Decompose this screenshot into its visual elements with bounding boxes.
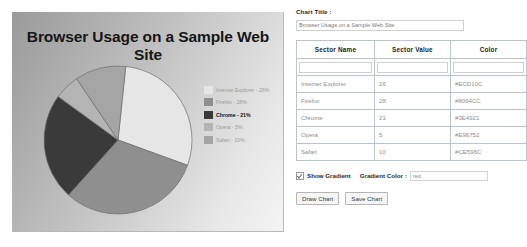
column-header-sector-name: Sector Name <box>297 40 375 58</box>
new-entry-name-cell <box>297 58 375 75</box>
show-gradient-label: Show Gradient <box>307 172 351 179</box>
sector-value-cell: 28 <box>375 92 451 109</box>
save-chart-button[interactable]: Save Chart <box>345 192 388 205</box>
sector-name-text: Safari <box>297 145 374 159</box>
legend-item-label: Safari - 10% <box>216 136 245 144</box>
sector-color-cell: #8064CC <box>451 92 527 109</box>
legend-swatch-icon <box>204 86 213 94</box>
sector-value-cell: 10 <box>375 143 451 160</box>
legend-swatch-icon <box>204 136 213 144</box>
gradient-options-row: Show Gradient Gradient Color : <box>296 171 472 181</box>
column-header-sector-value: Sector Value <box>375 40 451 58</box>
sector-color-text: #CE596C <box>451 145 526 159</box>
sector-value-text: 21 <box>375 111 450 125</box>
sector-name-cell: Firefox <box>297 92 375 109</box>
action-button-row: Draw Chart Save Chart <box>296 192 472 205</box>
legend-item: Opera - 5% <box>204 122 280 133</box>
show-gradient-checkbox[interactable] <box>296 172 304 180</box>
pie-chart-svg <box>42 64 194 216</box>
sector-name-text: Firefox <box>297 94 374 108</box>
sector-color-cell: #E96752 <box>451 126 527 143</box>
legend-item: Safari - 10% <box>204 134 280 145</box>
legend-item-label: Internet Explorer - 26% <box>216 86 269 94</box>
legend-item: Firefox - 28% <box>204 97 280 108</box>
sector-name-text: Chrome <box>297 111 374 125</box>
chart-editor-form: Chart Title : Sector Name Sector Value C… <box>296 8 472 205</box>
sector-value-text: 28 <box>375 94 450 108</box>
sector-color-text: #ECD10C <box>451 77 526 91</box>
new-sector-name-input[interactable] <box>299 62 372 73</box>
new-sector-color-input[interactable] <box>453 62 524 73</box>
chart-title-text: Browser Usage on a Sample Web Site <box>12 28 284 64</box>
chart-title-label: Chart Title : <box>296 8 472 15</box>
sector-value-cell: 26 <box>375 75 451 92</box>
chart-preview-panel: Browser Usage on a Sample Web Site Inter… <box>12 12 284 232</box>
sector-value-text: 26 <box>375 77 450 91</box>
legend-item: Chrome - 21% <box>204 109 280 120</box>
table-row[interactable]: Internet Explorer26#ECD10C <box>297 75 527 92</box>
sector-name-cell: Opera <box>297 126 375 143</box>
new-sector-value-input[interactable] <box>377 62 448 73</box>
column-header-color: Color <box>451 40 527 58</box>
table-row[interactable]: Safari10#CE596C <box>297 143 527 160</box>
sector-name-cell: Chrome <box>297 109 375 126</box>
gradient-color-input[interactable] <box>410 171 488 181</box>
chart-title-input[interactable] <box>296 20 464 31</box>
sector-color-text: #3E4921 <box>451 111 526 125</box>
new-entry-color-cell <box>451 58 527 75</box>
legend-item-label: Firefox - 28% <box>216 98 247 106</box>
sector-value-cell: 21 <box>375 109 451 126</box>
table-row[interactable]: Opera5#E96752 <box>297 126 527 143</box>
sector-color-cell: #3E4921 <box>451 109 527 126</box>
draw-chart-button[interactable]: Draw Chart <box>296 192 339 205</box>
sector-color-cell: #CE596C <box>451 143 527 160</box>
table-new-entry-row <box>297 58 527 75</box>
legend-item: Internet Explorer - 26% <box>204 84 280 95</box>
sector-value-cell: 5 <box>375 126 451 143</box>
legend-swatch-icon <box>204 98 213 106</box>
sector-color-cell: #ECD10C <box>451 75 527 92</box>
table-header-row: Sector Name Sector Value Color <box>297 40 527 58</box>
sector-data-table: Sector Name Sector Value Color <box>296 40 527 161</box>
legend-swatch-icon <box>204 123 213 131</box>
chart-legend: Internet Explorer - 26%Firefox - 28%Chro… <box>204 84 280 147</box>
sector-value-text: 10 <box>375 145 450 159</box>
pie-chart <box>42 64 194 216</box>
sector-name-text: Internet Explorer <box>297 77 374 91</box>
legend-swatch-icon <box>204 111 213 119</box>
sector-value-text: 5 <box>375 128 450 142</box>
legend-item-label: Chrome - 21% <box>216 111 251 119</box>
table-row[interactable]: Chrome21#3E4921 <box>297 109 527 126</box>
sector-name-cell: Safari <box>297 143 375 160</box>
sector-color-text: #E96752 <box>451 128 526 142</box>
sector-name-text: Opera <box>297 128 374 142</box>
legend-item-label: Opera - 5% <box>216 123 243 131</box>
new-entry-value-cell <box>375 58 451 75</box>
gradient-color-label: Gradient Color : <box>360 172 407 179</box>
sector-name-cell: Internet Explorer <box>297 75 375 92</box>
table-row[interactable]: Firefox28#8064CC <box>297 92 527 109</box>
sector-color-text: #8064CC <box>451 94 526 108</box>
